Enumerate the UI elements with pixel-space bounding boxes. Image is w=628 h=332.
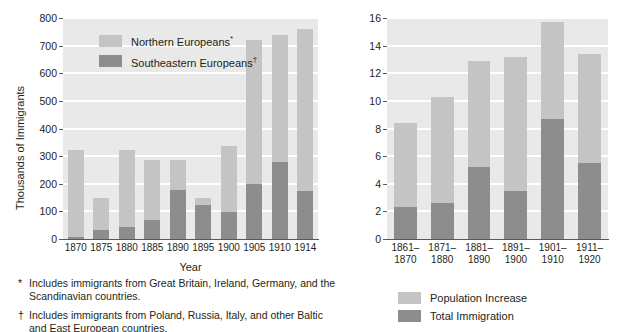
bar-group <box>497 18 534 239</box>
left-chart-x-axis-title: Year <box>63 261 318 273</box>
bar-segment-upper <box>394 123 417 207</box>
bar-group <box>571 18 608 239</box>
bar-segment-lower <box>468 167 491 239</box>
x-tick-label: 1870 <box>63 242 89 254</box>
stacked-bar <box>119 150 135 239</box>
right-chart-plot-area <box>387 18 608 239</box>
legend-swatch-population-increase <box>398 292 421 304</box>
bar-group <box>63 18 89 239</box>
bar-segment-lower <box>504 191 527 239</box>
bar-segment-upper <box>504 57 527 191</box>
y-tick-label: 500 <box>31 95 57 107</box>
bar-segment-lower <box>246 184 262 239</box>
population-increase-figure: Millions of Persons 0246810121416 1861– … <box>336 0 628 332</box>
stacked-bar <box>297 29 313 240</box>
x-tick-label: 1890 <box>165 242 191 254</box>
x-tick-label: 1871– 1880 <box>424 242 461 266</box>
x-tick-label: 1895 <box>191 242 217 254</box>
bar-segment-lower <box>119 227 135 239</box>
legend-label-total-immigration: Total Immigration <box>430 310 514 322</box>
stacked-bar <box>221 146 237 239</box>
stacked-bar <box>195 198 211 239</box>
x-tick-label: 1861– 1870 <box>387 242 424 266</box>
footnote-mark: † <box>18 309 29 332</box>
y-tick-label: 100 <box>31 205 57 217</box>
bar-segment-lower <box>394 207 417 239</box>
bar-segment-lower <box>144 220 160 239</box>
immigration-by-origin-figure: Thousands of Immigrants 0100200300400500… <box>0 0 336 332</box>
x-tick-label: 1900 <box>216 242 242 254</box>
stacked-bar <box>93 198 109 239</box>
y-tick-label: 0 <box>31 233 57 245</box>
bar-segment-upper <box>431 97 454 203</box>
legend-footnote-mark-dagger: † <box>253 55 257 64</box>
legend-label-southeastern-europeans: Southeastern Europeans† <box>131 55 257 69</box>
bar-segment-lower <box>297 191 313 239</box>
y-tick-label: 8 <box>365 123 381 135</box>
stacked-bar <box>144 160 160 239</box>
right-chart-bars <box>387 18 608 239</box>
y-tick-label: 6 <box>365 150 381 162</box>
footnote-mark: * <box>18 277 29 303</box>
legend-item-northern-europeans: Northern Europeans* <box>99 34 257 48</box>
y-tick-label: 16 <box>365 12 381 24</box>
y-tick-label: 0 <box>365 233 381 245</box>
left-chart-plot-area: Northern Europeans* Southeastern Europea… <box>63 18 318 239</box>
legend-swatch-southeastern-europeans <box>99 55 122 67</box>
stacked-bar <box>431 97 454 239</box>
x-tick-label: 1891– 1900 <box>497 242 534 266</box>
x-tick-label: 1910 <box>267 242 293 254</box>
stacked-bar <box>578 54 601 239</box>
footnote: †Includes immigrants from Poland, Russia… <box>18 309 336 332</box>
y-tick-label: 400 <box>31 123 57 135</box>
bar-segment-upper <box>468 61 491 167</box>
bar-segment-lower <box>93 230 109 239</box>
footnote: *Includes immigrants from Great Britain,… <box>18 277 336 303</box>
bar-segment-upper <box>93 198 109 230</box>
stacked-bar <box>68 150 84 239</box>
bar-segment-lower <box>195 205 211 239</box>
y-tick-label: 700 <box>31 40 57 52</box>
right-chart-x-axis-line <box>384 239 609 240</box>
bar-segment-upper <box>170 160 186 190</box>
left-chart-legend: Northern Europeans* Southeastern Europea… <box>99 34 257 75</box>
x-tick-label: 1880 <box>114 242 140 254</box>
stacked-bar <box>394 123 417 239</box>
bar-segment-upper <box>297 29 313 191</box>
x-tick-label: 1914 <box>293 242 319 254</box>
x-tick-label: 1905 <box>242 242 268 254</box>
y-tick-label: 14 <box>365 40 381 52</box>
bar-segment-upper <box>272 35 288 163</box>
y-tick-label: 200 <box>31 178 57 190</box>
legend-item-total-immigration: Total Immigration <box>398 310 527 322</box>
bar-segment-lower <box>170 190 186 239</box>
x-tick-label: 1901– 1910 <box>534 242 571 266</box>
y-tick-label: 800 <box>31 12 57 24</box>
right-chart-x-tick-labels: 1861– 18701871– 18801881– 18901891– 1900… <box>387 242 608 266</box>
bar-segment-upper <box>144 160 160 219</box>
stacked-bar <box>541 22 564 239</box>
left-chart-y-axis-title: Thousands of Immigrants <box>14 86 26 210</box>
bar-segment-lower <box>431 203 454 239</box>
bar-segment-upper <box>68 150 84 237</box>
y-tick-label: 300 <box>31 150 57 162</box>
bar-segment-upper <box>541 22 564 119</box>
y-tick-label: 12 <box>365 67 381 79</box>
stacked-bar <box>468 61 491 239</box>
x-tick-label: 1875 <box>89 242 115 254</box>
bar-group <box>534 18 571 239</box>
bar-segment-lower <box>272 162 288 239</box>
right-chart-legend: Population Increase Total Immigration <box>398 292 527 328</box>
stacked-bar <box>170 160 186 239</box>
bar-segment-upper <box>119 150 135 227</box>
stacked-bar <box>504 57 527 239</box>
bar-segment-upper <box>221 146 237 212</box>
legend-swatch-total-immigration <box>398 310 421 322</box>
footnotes: *Includes immigrants from Great Britain,… <box>18 277 336 332</box>
legend-item-population-increase: Population Increase <box>398 292 527 304</box>
y-tick-label: 10 <box>365 95 381 107</box>
bar-segment-lower <box>541 119 564 239</box>
x-tick-label: 1885 <box>140 242 166 254</box>
legend-label-northern-europeans: Northern Europeans* <box>131 34 233 48</box>
legend-footnote-mark-asterisk: * <box>230 34 233 43</box>
